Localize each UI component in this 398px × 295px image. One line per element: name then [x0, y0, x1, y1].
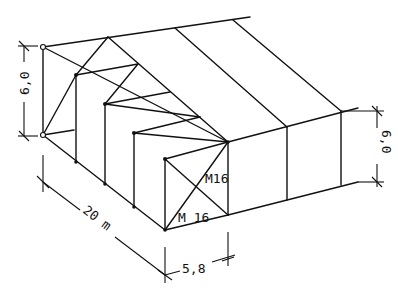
dimension-left-height: 6,0 — [17, 41, 38, 141]
dimension-right-height: 6,0 — [341, 106, 394, 187]
right-height-label: 6,0 — [379, 130, 394, 153]
frame-nodes — [41, 45, 230, 232]
dimension-width: 5,8 — [165, 232, 235, 276]
bracing-label-lower: M 16 — [178, 210, 209, 225]
side-wall — [228, 111, 358, 215]
roof-outline — [43, 17, 358, 142]
left-height-label: 6,0 — [17, 72, 32, 95]
bracing-label-upper: M16 — [205, 171, 228, 186]
structural-frame-diagram: 6,0 6,0 20 m 5,8 M16 M 16 — [0, 0, 398, 295]
length-label: 20 m — [80, 202, 114, 233]
width-label: 5,8 — [182, 261, 205, 276]
left-gable-wall — [43, 47, 165, 230]
